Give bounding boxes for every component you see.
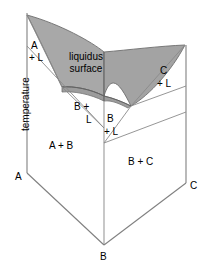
region-label-b-plus-c: B + C	[128, 156, 153, 167]
region-label-a-plus-l-line1: A	[31, 40, 38, 51]
region-label-a-plus-b: A + B	[49, 140, 73, 151]
corner-label-a: A	[15, 171, 22, 182]
corner-label-b: B	[100, 251, 107, 262]
region-label-a-plus-l-line2: + L	[29, 52, 43, 63]
region-label-b-plus-l-right-line2: + L	[104, 126, 118, 137]
region-label-liquidus-line2: surface	[58, 63, 114, 74]
region-label-liquidus-line1: liquidus	[58, 51, 114, 62]
corner-label-c: C	[190, 180, 197, 191]
region-label-b-plus-l-left-line2: L	[86, 114, 92, 125]
region-label-b-plus-l-left-line1: B +	[74, 101, 89, 112]
phase-diagram-figure: temperature A + L liquidus surface C + L…	[0, 0, 208, 273]
region-label-b-plus-l-right-line1: B	[107, 113, 114, 124]
y-axis-label-temperature: temperature	[20, 77, 31, 131]
region-label-c-plus-l-line2: + L	[157, 78, 171, 89]
region-label-c-plus-l-line1: C	[160, 65, 167, 76]
